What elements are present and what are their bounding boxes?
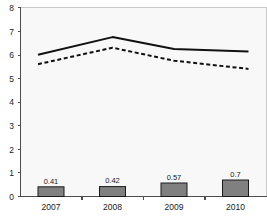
bar-value-2008: 0.42 [105,176,120,185]
y-tick-label-4: 4 [9,97,14,107]
y-tick-label-5: 5 [9,74,14,84]
y-tick-label-6: 6 [9,50,14,60]
chart-container: 0 1 2 3 4 5 6 7 8 0.41 0.42 0.57 [0,0,267,216]
bar-2010 [223,180,249,197]
y-axis-labels: 0 1 2 3 4 5 6 7 8 [9,3,14,202]
bar-2007 [38,187,64,197]
y-tick-label-7: 7 [9,27,14,37]
x-tick-label-2008: 2008 [103,202,122,212]
bar-2009 [161,183,187,197]
bar-value-2009: 0.57 [167,173,182,182]
x-tick-label-2007: 2007 [42,202,61,212]
x-axis-labels: 2007 2008 2009 2010 [42,202,246,212]
y-tick-label-1: 1 [9,168,14,178]
bar-value-2010: 0.7 [230,170,240,179]
x-tick-label-2009: 2009 [165,202,184,212]
y-tick-label-8: 8 [9,3,14,13]
y-tick-label-3: 3 [9,121,14,131]
x-tick-label-2010: 2010 [226,202,245,212]
plot-area-background [21,8,267,197]
bar-value-2007: 0.41 [44,177,59,186]
y-tick-label-0: 0 [9,192,14,202]
bar-2008 [100,187,126,197]
chart-figure: 0 1 2 3 4 5 6 7 8 0.41 0.42 0.57 [0,0,267,216]
y-tick-label-2: 2 [9,145,14,155]
